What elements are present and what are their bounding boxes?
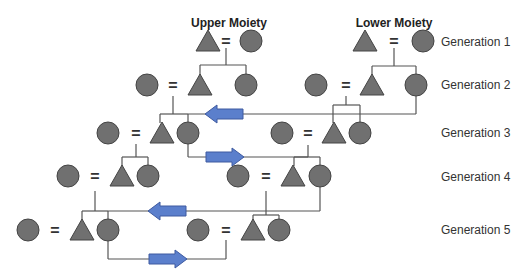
female-circle-icon: [412, 30, 434, 52]
lower-moiety-title: Lower Moiety: [356, 16, 433, 30]
arrow-right-icon: [206, 148, 244, 166]
marriage-equals: =: [261, 168, 270, 185]
generation-3-label: Generation 3: [441, 126, 511, 140]
female-circle-icon: [187, 219, 209, 241]
female-circle-icon: [97, 219, 119, 241]
male-triangle-icon: [322, 122, 346, 143]
female-circle-icon: [235, 74, 257, 96]
generation-2-label: Generation 2: [441, 78, 511, 92]
female-circle-icon: [271, 122, 293, 144]
male-triangle-icon: [360, 74, 384, 95]
marriage-equals: =: [168, 77, 177, 94]
female-circle-icon: [240, 30, 262, 52]
female-circle-icon: [137, 165, 159, 187]
female-circle-icon: [177, 122, 199, 144]
marriage-equals: =: [221, 222, 230, 239]
male-triangle-icon: [150, 122, 174, 143]
marriage-equals: =: [90, 168, 99, 185]
male-triangle-icon: [188, 74, 212, 95]
male-triangle-icon: [241, 219, 265, 240]
arrow-right-icon: [149, 250, 187, 268]
generation-1-label: Generation 1: [441, 35, 511, 49]
generation-4-label: Generation 4: [441, 170, 511, 184]
upper-moiety-title: Upper Moiety: [191, 16, 267, 30]
marriage-equals: =: [389, 33, 398, 50]
marriage-equals: =: [303, 125, 312, 142]
female-circle-icon: [305, 74, 327, 96]
female-circle-icon: [57, 165, 79, 187]
male-triangle-icon: [110, 165, 134, 186]
female-circle-icon: [309, 165, 331, 187]
female-circle-icon: [136, 74, 158, 96]
marriage-equals: =: [341, 77, 350, 94]
female-circle-icon: [349, 122, 371, 144]
male-triangle-icon: [353, 30, 377, 51]
female-circle-icon: [97, 122, 119, 144]
generation-5-label: Generation 5: [441, 223, 511, 237]
kinship-diagram: Upper Moiety Lower Moiety Generation 1 G…: [0, 0, 521, 279]
arrow-left-icon: [205, 105, 243, 123]
male-triangle-icon: [196, 30, 220, 51]
female-circle-icon: [17, 219, 39, 241]
male-triangle-icon: [281, 165, 305, 186]
marriage-equals: =: [50, 222, 59, 239]
marriage-equals: =: [131, 125, 140, 142]
marriage-equals: =: [221, 33, 230, 50]
arrow-left-icon: [148, 202, 186, 220]
female-circle-icon: [268, 219, 290, 241]
female-circle-icon: [405, 74, 427, 96]
male-triangle-icon: [70, 219, 94, 240]
female-circle-icon: [227, 165, 249, 187]
